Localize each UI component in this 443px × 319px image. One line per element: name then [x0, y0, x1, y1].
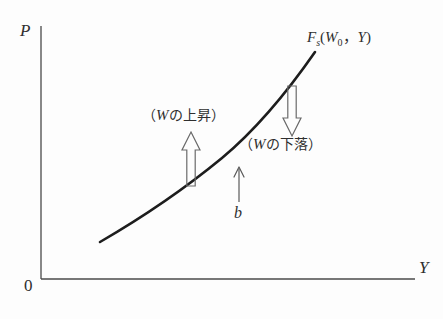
wage-rise-variable: W [156, 107, 169, 123]
curve-label-F: F [307, 29, 316, 45]
curve-label-comma: ， [343, 29, 358, 45]
origin-label: 0 [24, 277, 33, 294]
plot-canvas [0, 0, 443, 319]
wage-rise-text: の上昇） [169, 107, 225, 123]
wage-rise-annotation: （Wの上昇） [142, 108, 225, 123]
wage-fall-variable: W [253, 136, 266, 152]
point-b-label: b [234, 205, 242, 221]
curve-label-W: W [325, 29, 338, 45]
wage-fall-annotation: （Wの下落） [239, 137, 322, 152]
wage-fall-open: （ [239, 136, 253, 152]
wage-fall-text: の下落） [266, 136, 322, 152]
curve-label-close-paren: ) [366, 29, 371, 45]
curve-label-Y: Y [358, 29, 366, 45]
wage-rise-open: （ [142, 107, 156, 123]
x-axis-label: Y [419, 259, 428, 276]
supply-curve-label: Fs(W0，Y) [307, 30, 371, 48]
supply-curve-figure: P Y 0 Fs(W0，Y) （Wの上昇） （Wの下落） b [0, 0, 443, 319]
y-axis-label: P [20, 22, 30, 39]
